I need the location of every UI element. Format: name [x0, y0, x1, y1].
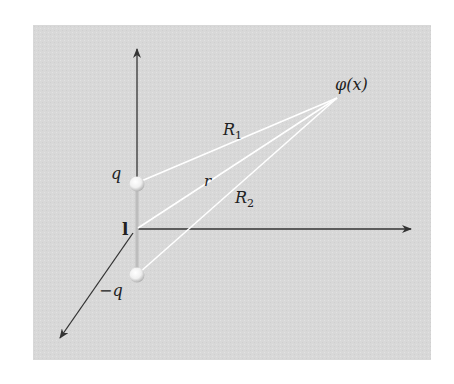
negative-charge-label: −q [99, 281, 123, 300]
positive-charge [130, 177, 145, 192]
field-point-label: φ(x) [335, 75, 368, 94]
r1-label-base: R [222, 120, 235, 139]
diagram-panel [33, 25, 431, 360]
positive-charge-label: q [111, 164, 121, 183]
r1-label-sub: 1 [235, 129, 242, 142]
negative-charge [130, 268, 145, 283]
r2-label-sub: 2 [247, 197, 254, 210]
r-label: r [204, 172, 212, 190]
dipole-diagram: φ(x) R1 r R2 q l −q [0, 0, 454, 384]
r2-label-base: R [234, 188, 247, 207]
separation-label: l [122, 219, 129, 239]
